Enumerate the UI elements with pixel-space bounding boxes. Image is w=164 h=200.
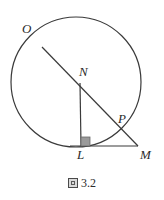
vertex-label-L: L	[77, 148, 84, 161]
vertex-label-P: P	[118, 112, 126, 125]
geometry-figure: O N P L M 3.2	[0, 0, 164, 200]
figure-caption-number: 3.2	[81, 176, 96, 191]
figure-caption: 3.2	[0, 176, 164, 191]
segment-N-to-L	[80, 83, 81, 146]
right-angle-marker	[81, 137, 90, 146]
vertex-label-M: M	[140, 148, 151, 161]
vertex-label-O: O	[22, 22, 31, 35]
vertex-label-N: N	[79, 65, 88, 78]
figure-caption-glyph-icon	[68, 178, 78, 188]
segment-O-to-M	[42, 47, 138, 146]
